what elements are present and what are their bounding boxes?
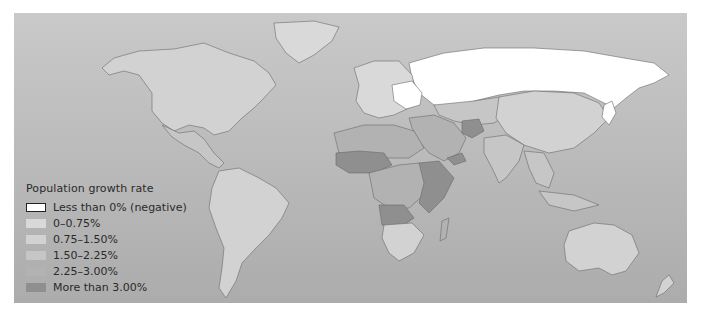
legend-label: 0–0.75%	[53, 217, 100, 230]
region-madagascar	[440, 218, 449, 241]
legend-swatch	[26, 267, 46, 276]
legend-swatch	[26, 219, 46, 228]
legend-label: 2.25–3.00%	[53, 265, 118, 278]
legend-label: 1.50–2.25%	[53, 249, 118, 262]
legend-item: 0–0.75%	[26, 215, 187, 231]
legend-item: 2.25–3.00%	[26, 263, 187, 279]
legend-item: More than 3.00%	[26, 279, 187, 295]
region-greenland	[274, 21, 339, 63]
legend-swatch	[26, 283, 46, 292]
region-australia	[564, 223, 639, 275]
region-new-zealand	[656, 275, 674, 297]
map-frame: Population growth rate Less than 0% (neg…	[14, 13, 687, 303]
region-indonesia	[539, 191, 599, 211]
legend-item: Less than 0% (negative)	[26, 199, 187, 215]
region-southeast-asia	[524, 151, 554, 188]
legend-label: More than 3.00%	[53, 281, 147, 294]
region-south-america	[209, 168, 289, 298]
legend-swatch	[26, 251, 46, 260]
legend-title: Population growth rate	[26, 182, 187, 195]
region-india	[484, 135, 524, 183]
legend-item: 1.50–2.25%	[26, 247, 187, 263]
legend-item: 0.75–1.50%	[26, 231, 187, 247]
region-southern-africa	[382, 223, 424, 261]
legend-label: 0.75–1.50%	[53, 233, 118, 246]
legend-label: Less than 0% (negative)	[53, 201, 187, 214]
legend-swatch	[26, 235, 46, 244]
region-east-africa	[419, 161, 454, 213]
region-north-america	[102, 43, 276, 135]
legend: Population growth rate Less than 0% (neg…	[26, 182, 187, 295]
legend-swatch	[26, 203, 46, 212]
